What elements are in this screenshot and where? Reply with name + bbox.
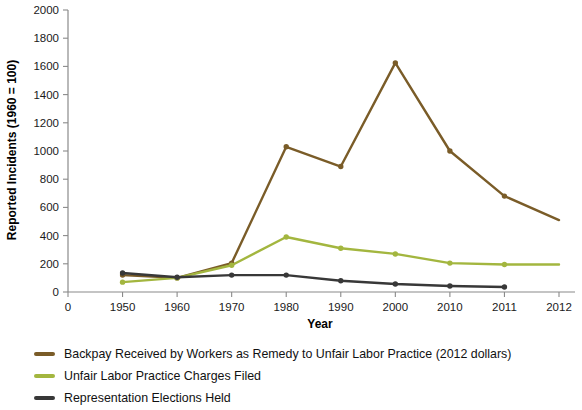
y-tick-label: 400 <box>40 230 59 242</box>
x-tick-label: 2010 <box>437 301 463 313</box>
data-point <box>393 251 398 256</box>
chart-svg: 0200400600800100012001400160018002000 01… <box>0 0 582 335</box>
legend-swatch-icon <box>34 396 55 400</box>
x-tick-label: 1960 <box>164 301 190 313</box>
x-tick-label: 2011 <box>492 301 517 313</box>
x-tick-label: 2012 <box>546 301 572 313</box>
data-point <box>447 148 452 153</box>
x-tick-label: 1950 <box>110 301 136 313</box>
data-point <box>502 193 507 198</box>
plot-area: 0200400600800100012001400160018002000 01… <box>0 0 582 335</box>
x-tick-label: 1980 <box>273 301 299 313</box>
legend-swatch-icon <box>34 374 55 378</box>
data-point <box>447 260 452 265</box>
data-point <box>338 164 343 169</box>
legend-swatch-icon <box>34 352 55 356</box>
legend-item: Representation Elections Held <box>34 388 582 408</box>
data-point <box>284 272 289 277</box>
y-tick-label: 1400 <box>33 89 59 101</box>
data-point <box>120 279 125 284</box>
data-point <box>284 234 289 239</box>
y-tick-label: 200 <box>40 258 59 270</box>
y-axis-ticks: 0200400600800100012001400160018002000 <box>33 4 68 298</box>
x-tick-label: 1990 <box>328 301 354 313</box>
y-tick-label: 1200 <box>33 117 59 129</box>
data-point <box>502 262 507 267</box>
data-point <box>393 281 398 286</box>
series-line-1 <box>123 237 559 282</box>
x-tick-label: 2000 <box>383 301 409 313</box>
x-axis-title: Year <box>307 317 333 331</box>
x-tick-label: 0 <box>65 301 71 313</box>
data-point <box>393 60 398 65</box>
y-tick-label: 800 <box>40 173 59 185</box>
y-tick-label: 1000 <box>33 145 59 157</box>
y-tick-label: 0 <box>53 286 59 298</box>
data-point <box>174 274 179 279</box>
data-point <box>229 272 234 277</box>
y-tick-label: 600 <box>40 201 59 213</box>
x-axis-ticks: 0195019601970198019902000201020112012 <box>65 292 572 313</box>
data-point <box>338 246 343 251</box>
legend-item: Backpay Received by Workers as Remedy to… <box>34 344 582 364</box>
series-group <box>120 60 559 290</box>
data-point <box>447 283 452 288</box>
series-line-2 <box>123 273 505 287</box>
data-point <box>120 270 125 275</box>
data-point <box>502 284 507 289</box>
x-tick-label: 1970 <box>219 301 245 313</box>
legend-label: Representation Elections Held <box>64 388 231 408</box>
data-point <box>284 144 289 149</box>
line-chart: 0200400600800100012001400160018002000 01… <box>0 0 582 410</box>
chart-legend: Backpay Received by Workers as Remedy to… <box>34 344 582 410</box>
data-point <box>229 263 234 268</box>
y-tick-label: 1800 <box>33 32 59 44</box>
legend-item: Unfair Labor Practice Charges Filed <box>34 366 582 386</box>
legend-label: Backpay Received by Workers as Remedy to… <box>64 344 511 364</box>
y-axis-title: Reported Incidents (1960 = 100) <box>5 60 19 240</box>
legend-label: Unfair Labor Practice Charges Filed <box>64 366 261 386</box>
y-tick-label: 1600 <box>33 60 59 72</box>
y-tick-label: 2000 <box>33 4 59 16</box>
data-point <box>338 278 343 283</box>
